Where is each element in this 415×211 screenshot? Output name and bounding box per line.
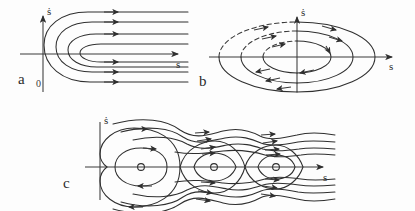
panel-a: ṡ s 0 [0, 0, 195, 108]
panel-c-streamline-above-4 [175, 150, 335, 157]
panel-b-ellipse-middle-left-upper [241, 31, 297, 57]
panel-b-vertical-axis-label: ṡ [301, 6, 305, 18]
panel-b-flow-arrow-top-4 [322, 26, 336, 30]
panel-c-flow-arrow-2 [143, 148, 156, 149]
panel-c-streamline-below-4 [113, 195, 335, 211]
panel-a-origin-label: 0 [36, 78, 41, 89]
panel-b-ellipse-middle-left-lower [241, 57, 297, 83]
panel-c-caption: c [63, 175, 70, 192]
panel-b-caption: b [199, 73, 207, 90]
panel-b-ellipse-outer-left-upper [219, 22, 297, 57]
panel-c-flow-arrow-5 [195, 132, 209, 133]
panel-b-flow-arrow-bottom-1 [256, 69, 270, 72]
panel-b-horizontal-axis-label: s [389, 60, 393, 72]
panel-c-streamline-below-3 [121, 189, 335, 206]
panel-c: ṡ s [55, 108, 365, 211]
panel-b-ellipse-outer-left-lower [219, 57, 297, 92]
panel-b-ellipse-inner-left-lower [263, 57, 297, 73]
panel-b-ellipse-inner-left-upper [263, 41, 297, 57]
panel-a-trajectory-1 [56, 22, 188, 72]
panel-c-vertical-axis-label: ṡ [104, 114, 108, 126]
panel-a-trajectory-3 [80, 44, 188, 62]
panel-c-flow-arrow-14 [265, 149, 279, 150]
panel-a-caption: a [18, 71, 25, 88]
panel-a-horizontal-axis-label: s [176, 58, 180, 70]
panel-b: ṡ s [196, 0, 415, 108]
panel-c-horizontal-axis-label: s [323, 171, 327, 183]
panel-c-flow-arrow-13 [263, 141, 277, 143]
panel-c-streamline-below-1 [175, 177, 335, 184]
panel-b-flow-arrow-bottom-3 [277, 87, 291, 89]
panel-c-flow-arrow-12 [261, 134, 275, 135]
phase-portrait-figure: ṡ s 0 a ṡ s [0, 0, 415, 211]
panel-a-vertical-axis-label: ṡ [47, 5, 51, 17]
